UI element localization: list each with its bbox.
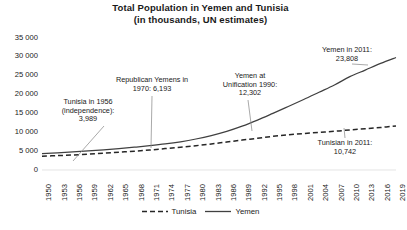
- x-tick-label: 1950: [45, 184, 53, 201]
- legend-label-tunisia: Tunisia: [172, 207, 197, 216]
- legend-item-yemen[interactable]: Yemen: [205, 207, 259, 216]
- x-tick-label: 2016: [384, 184, 392, 201]
- annotation-text: Republican Yemens in1970: 6,193: [116, 76, 188, 93]
- x-tick-label: 1998: [291, 184, 299, 201]
- y-tick-label: 25 000: [0, 71, 38, 79]
- leader-line-yemen-2011: [352, 64, 368, 65]
- annotation-text: Yemen atUnification 1990:12,302: [223, 72, 277, 98]
- y-tick-label: 5 000: [0, 147, 38, 155]
- annotation-text: Yemen in 2011:23,808: [322, 46, 372, 63]
- annotation-line: 12,302: [223, 89, 277, 98]
- y-tick-label: 15 000: [0, 109, 38, 117]
- x-tick-label: 1959: [91, 184, 99, 201]
- annotation-line: 3,989: [62, 115, 115, 124]
- x-tick-label: 1995: [276, 184, 284, 201]
- legend-dashed-line-icon: [142, 208, 168, 215]
- annotation-text: Tunisian in 2011:10,742: [318, 139, 373, 156]
- x-tick-label: 2001: [307, 184, 315, 201]
- y-tick-label: 0: [0, 166, 38, 174]
- leader-line-tunisia-1956: [73, 126, 104, 161]
- y-tick-label: 30 000: [0, 52, 38, 60]
- legend-label-yemen: Yemen: [235, 207, 259, 216]
- x-tick-label: 1965: [122, 184, 130, 201]
- x-tick-label: 2010: [353, 184, 361, 201]
- chart-legend: Tunisia Yemen: [0, 207, 401, 216]
- annotation-text: Tunisia in 1956(independence):3,989: [62, 98, 115, 124]
- x-tick-label: 2013: [368, 184, 376, 201]
- x-tick-label: 2007: [338, 184, 346, 201]
- x-tick-label: 1980: [199, 184, 207, 201]
- x-tick-label: 2004: [322, 184, 330, 201]
- x-tick-label: 1977: [184, 184, 192, 201]
- y-tick-label: 20 000: [0, 90, 38, 98]
- annotation-line: 23,808: [322, 55, 372, 64]
- x-tick-label: 1983: [215, 184, 223, 201]
- legend-item-tunisia[interactable]: Tunisia: [142, 207, 197, 216]
- annotation-line: 10,742: [318, 148, 373, 157]
- x-tick-label: 1956: [76, 184, 84, 201]
- x-tick-label: 1992: [261, 184, 269, 201]
- x-tick-label: 1962: [107, 184, 115, 201]
- annotation-line: 1970: 6,193: [116, 85, 188, 94]
- legend-solid-line-icon: [205, 208, 231, 215]
- x-tick-label: 1986: [230, 184, 238, 201]
- leader-line-republican-yemens-1970: [151, 96, 152, 148]
- x-tick-label: 1974: [168, 184, 176, 201]
- y-tick-label: 35 000: [0, 34, 38, 42]
- x-tick-label: 1953: [61, 184, 69, 201]
- x-tick-label: 2019: [399, 184, 407, 201]
- leader-line-yemen-unification-1990: [248, 100, 252, 131]
- x-tick-label: 1968: [138, 184, 146, 201]
- leader-line-tunisian-2011: [344, 128, 345, 138]
- x-tick-label: 1971: [153, 184, 161, 201]
- x-tick-label: 1989: [245, 184, 253, 201]
- y-tick-label: 10 000: [0, 128, 38, 136]
